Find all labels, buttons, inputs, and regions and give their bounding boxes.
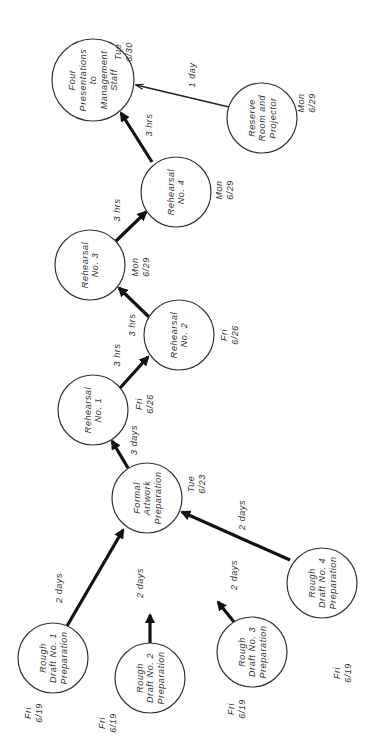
node-day: Mon — [130, 257, 140, 276]
node-label-line: Rough — [237, 637, 247, 667]
nodes-layer: FourPresentationstoManagementStaffTue6/3… — [18, 39, 357, 733]
edge-rehearsal_1-to-rehearsal_2: 3 hrs — [112, 343, 148, 388]
node-rehearsal-2: RehearsalNo. 2Fri6/26 — [144, 300, 240, 370]
node-day: Fri — [97, 717, 107, 729]
node-label-line: Reserve — [247, 99, 257, 137]
node-label-line: Rehearsal — [80, 241, 90, 288]
node-day: Mon — [214, 180, 224, 199]
node-four-presentations: FourPresentationstoManagementStaffTue6/3… — [52, 39, 134, 121]
node-rehearsal-1: RehearsalNo. 1Fri6/26 — [58, 375, 155, 445]
arrow-icon — [67, 530, 123, 626]
pert-network-diagram: 1 day3 hrs3 hrs3 hrs3 hrs3 days2 days2 d… — [0, 0, 373, 755]
duration-label: 3 hrs — [112, 198, 122, 221]
edge-rough_1-to-formal_artwork: 2 days — [54, 530, 123, 626]
node-day: Fri — [226, 703, 236, 715]
edge-rehearsal_4-to-four_presentations: 3 hrs — [121, 113, 154, 162]
node-label-line: No. 2 — [179, 323, 189, 348]
node-reserve-room: ReserveRoom andProjectorMon6/29 — [227, 83, 317, 153]
node-label-line: Draft No. 2 — [145, 653, 155, 703]
node-label-line: Staff — [109, 68, 119, 90]
node-label-line: Formal — [132, 482, 142, 514]
duration-label: 1 day — [187, 62, 197, 87]
node-date: 6/19 — [237, 699, 247, 719]
node-label-line: to — [88, 76, 98, 85]
node-label-line: Draft No. 4 — [317, 558, 327, 608]
node-day: Fri — [134, 398, 144, 410]
node-label-line: Rough — [135, 663, 145, 693]
node-label-line: Preparation — [153, 471, 163, 524]
edge-rough_3-to-formal_artwork: 2 days — [218, 560, 239, 622]
node-label-line: Rehearsal — [83, 386, 93, 433]
node-label-line: Preparation — [328, 556, 338, 609]
arrow-icon — [119, 288, 149, 317]
node-formal-artwork: FormalArtworkPreparationTue6/23 — [112, 463, 207, 533]
node-day: Mon — [296, 93, 306, 112]
node-label-line: Preparation — [156, 651, 166, 704]
edge-rough_4-to-formal_artwork: 2 days — [182, 500, 290, 560]
node-date: 6/26 — [145, 394, 155, 414]
node-label-line: Rehearsal — [166, 168, 176, 215]
node-label-line: Room and — [257, 94, 267, 141]
node-label-line: No. 1 — [93, 398, 103, 423]
node-rehearsal-4: RehearsalNo. 4Mon6/29 — [141, 157, 235, 227]
duration-label: 2 days — [237, 500, 247, 531]
node-rough-3: RoughDraft No. 3PreparationFri6/19 — [217, 617, 287, 719]
duration-label: 3 days — [129, 425, 139, 455]
node-label-line: Rehearsal — [169, 311, 179, 358]
arrow-icon — [182, 512, 290, 560]
node-day: Tue — [113, 44, 123, 60]
node-label-line: Presentations — [78, 49, 88, 112]
node-date: 6/26 — [230, 325, 240, 345]
node-date: 6/19 — [343, 663, 353, 683]
node-day: Tue — [186, 476, 196, 492]
node-label-line: Artwork — [142, 481, 152, 517]
duration-label: 2 days — [54, 573, 64, 604]
node-label-line: Draft No. 3 — [247, 627, 257, 677]
node-label-line: Projector — [268, 97, 278, 139]
edge-rehearsal_3-to-rehearsal_4: 3 hrs — [112, 198, 146, 241]
node-label-line: Management — [99, 51, 109, 110]
node-rough-2: RoughDraft No. 2PreparationFri6/19 — [97, 643, 185, 733]
node-date: 6/19 — [34, 703, 44, 723]
duration-label: 2 days — [229, 560, 239, 591]
node-date: 6/23 — [197, 474, 207, 494]
node-rough-1: RoughDraft No. 1PreparationFri6/19 — [18, 623, 88, 723]
duration-label: 3 hrs — [127, 313, 137, 336]
node-label-line: No. 3 — [90, 253, 100, 278]
duration-label: 2 days — [135, 568, 145, 599]
node-label-line: Rough — [307, 568, 317, 598]
node-label-line: Preparation — [59, 631, 69, 684]
node-day: Fri — [332, 667, 342, 679]
arrow-icon — [112, 441, 128, 468]
arrow-icon — [136, 85, 229, 107]
edge-reserve_room-to-four_presentations: 1 day — [136, 62, 229, 107]
duration-label: 3 hrs — [112, 343, 122, 366]
duration-label: 3 hrs — [144, 113, 154, 136]
node-date: 6/19 — [108, 713, 118, 733]
node-day: Fri — [219, 329, 229, 341]
arrow-icon — [218, 602, 234, 622]
node-rough-4: RoughDraft No. 4PreparationFri6/19 — [287, 548, 357, 683]
node-label-line: Rough — [38, 643, 48, 673]
node-rehearsal-3: RehearsalNo. 3Mon6/29 — [55, 230, 151, 300]
node-date: 6/29 — [307, 93, 317, 113]
node-date: 6/30 — [124, 42, 134, 62]
node-label-line: Four — [67, 69, 77, 90]
node-date: 6/29 — [225, 180, 235, 200]
node-label-line: Preparation — [258, 625, 268, 678]
node-day: Fri — [23, 707, 33, 719]
node-date: 6/29 — [141, 257, 151, 277]
edge-rough_2-to-formal_artwork: 2 days — [135, 568, 150, 643]
node-label-line: Draft No. 1 — [48, 633, 58, 683]
arrow-icon — [120, 357, 148, 388]
node-label-line: No. 4 — [176, 180, 186, 205]
